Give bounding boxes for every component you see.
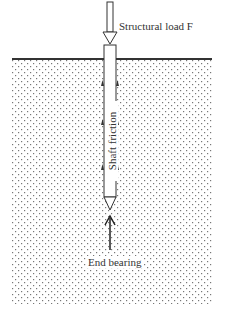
end-bearing-label: End bearing (86, 256, 143, 268)
shaft-friction-label: Shaft friction (106, 101, 118, 181)
structural-load-label: Structural load F (119, 20, 193, 32)
structural-load-arrow-icon (103, 2, 117, 44)
